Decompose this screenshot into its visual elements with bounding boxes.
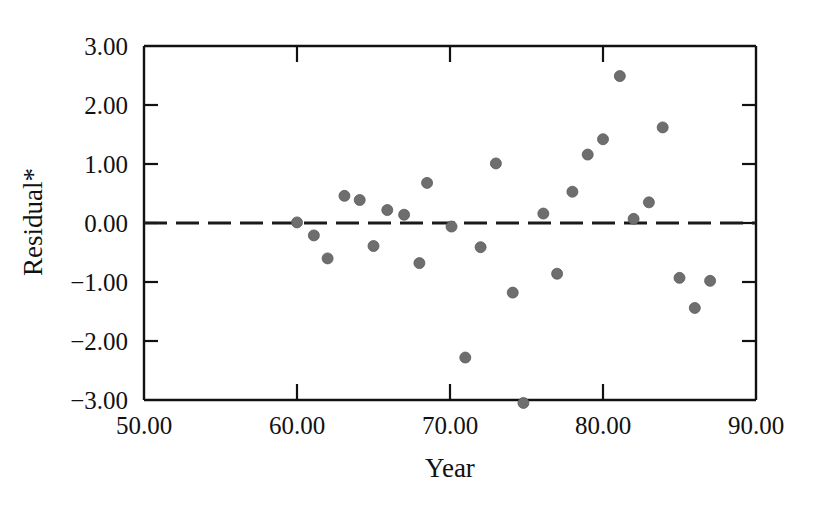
data-point (643, 197, 654, 208)
data-point (518, 397, 529, 408)
data-point (399, 209, 410, 220)
x-axis-title: Year (425, 453, 475, 483)
data-point (657, 122, 668, 133)
data-point (598, 134, 609, 145)
y-tick-label: −1.00 (70, 269, 128, 296)
data-point (354, 194, 365, 205)
y-tick-label: 0.00 (84, 210, 128, 237)
data-point (475, 242, 486, 253)
scatter-plot-canvas: 3.002.001.000.00−1.00−2.00−3.00 50.0060.… (0, 0, 829, 505)
data-point (689, 302, 700, 313)
data-point (614, 71, 625, 82)
data-point (538, 208, 549, 219)
y-tick-label: −2.00 (70, 328, 128, 355)
x-tick-label: 50.00 (116, 412, 172, 439)
data-point (582, 149, 593, 160)
x-tick-label: 80.00 (575, 412, 631, 439)
x-tick-label: 60.00 (269, 412, 325, 439)
residual-scatter-figure: 3.002.001.000.00−1.00−2.00−3.00 50.0060.… (0, 0, 829, 505)
y-axis-title: Residual* (18, 168, 48, 276)
data-point (446, 221, 457, 232)
data-point (368, 241, 379, 252)
data-point (414, 258, 425, 269)
x-axis-tick-labels: 50.0060.0070.0080.0090.00 (116, 412, 784, 439)
data-point (339, 190, 350, 201)
x-tick-label: 70.00 (422, 412, 478, 439)
data-points-group (292, 71, 716, 409)
data-point (292, 217, 303, 228)
y-tick-label: 1.00 (84, 151, 128, 178)
data-point (705, 275, 716, 286)
data-point (490, 158, 501, 169)
data-point (552, 268, 563, 279)
data-point (322, 253, 333, 264)
data-point (567, 186, 578, 197)
y-axis-tick-labels: 3.002.001.000.00−1.00−2.00−3.00 (70, 33, 128, 414)
data-point (308, 230, 319, 241)
x-tick-label: 90.00 (728, 412, 784, 439)
data-point (674, 272, 685, 283)
data-point (507, 287, 518, 298)
data-point (382, 205, 393, 216)
y-tick-label: 3.00 (84, 33, 128, 60)
y-tick-label: −3.00 (70, 387, 128, 414)
data-point (460, 352, 471, 363)
data-point (628, 213, 639, 224)
y-tick-label: 2.00 (84, 92, 128, 119)
data-point (422, 177, 433, 188)
